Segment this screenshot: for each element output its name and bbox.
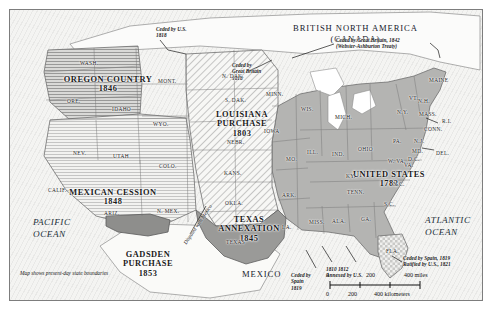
state-label-colo: COLO.: [159, 163, 177, 169]
state-label-nebr: NEBR.: [227, 139, 244, 145]
state-label-miss: MISS.: [309, 219, 325, 225]
territory-line-2: 1783: [349, 179, 429, 188]
state-label-kans: KANS.: [224, 170, 242, 176]
country-label-mexico: MEXICO: [242, 269, 281, 280]
scale-km-200: 200: [348, 291, 357, 297]
scale-bar: 0 200 400 miles 0 200 400 kilometers: [326, 272, 446, 300]
ocean-label-pacific-ocean: PACIFICOCEAN: [33, 217, 71, 240]
state-label-s-c: S.C.: [384, 201, 395, 207]
state-label-conn: CONN.: [424, 126, 442, 132]
annotation-line-3: 1819: [291, 285, 311, 291]
state-label-nev: NEV.: [73, 150, 86, 156]
state-label-del: DEL.: [436, 150, 449, 156]
country-line-1: MEXICO: [242, 269, 281, 280]
state-label-r-i: R.I.: [442, 118, 452, 124]
state-label-ga: GA.: [361, 216, 371, 222]
state-label-s-dak: S. DAK.: [225, 97, 246, 103]
state-label-wis: WIS.: [301, 106, 314, 112]
state-label-n-y: N.Y.: [397, 109, 408, 115]
state-label-wash: WASH.: [80, 60, 98, 66]
state-label-calif: CALIF.: [48, 187, 67, 193]
state-label-ky: KY.: [346, 173, 356, 179]
scale-miles-400: 400 miles: [404, 272, 428, 278]
scale-miles-200: 200: [366, 272, 375, 278]
state-label-pa: PA.: [393, 138, 402, 144]
state-label-n-h: N.H.: [418, 98, 430, 104]
territory-line-1: MEXICAN CESSION: [59, 188, 167, 197]
territory-line-2: ANNEXATION: [208, 224, 290, 233]
state-label-n-c: N.C.: [393, 181, 405, 187]
state-label-minn: MINN.: [266, 91, 283, 97]
state-label-mont: MONT.: [158, 78, 177, 84]
territory-line-2: 1848: [59, 197, 167, 206]
country-line-1: BRITISH NORTH AMERICA: [293, 23, 418, 34]
state-label-maine: MAINE: [429, 77, 448, 83]
territory-line-3: 1845: [208, 234, 290, 243]
state-label-texas: TEXAS: [226, 239, 245, 245]
territory-label-united-states-1783: UNITED STATES1783: [349, 170, 429, 189]
territory-line-1: TEXAS: [208, 215, 290, 224]
state-label-mass: MASS.: [419, 111, 437, 117]
ocean-label-atlantic-ocean: ATLANTICOCEAN: [425, 215, 471, 238]
state-label-idaho: IDAHO: [112, 106, 131, 112]
state-label-vt: VT.: [409, 95, 418, 101]
state-label-n-dak: N. DAK.: [222, 73, 244, 79]
state-label-md: MD.: [412, 148, 423, 154]
annotation-ceded-by-spain-florida: Ceded by Spain, 1819Ratified by U.S., 18…: [403, 255, 451, 268]
territory-line-1: OREGON COUNTRY: [56, 75, 160, 84]
gadsden-purchase-area: [106, 214, 170, 236]
state-label-d-c: D.C.: [408, 156, 420, 162]
state-label-n-j: N.J.: [414, 138, 424, 144]
map-frame: BRITISH NORTH AMERICA(CANADA)MEXICO PACI…: [9, 9, 483, 301]
state-label-mo: MO.: [286, 156, 297, 162]
state-label-ala: ALA.: [332, 218, 346, 224]
territory-label-mexican-cession: MEXICAN CESSION1848: [59, 188, 167, 207]
territory-line-1: UNITED STATES: [349, 170, 429, 179]
historical-map: BRITISH NORTH AMERICA(CANADA)MEXICO PACI…: [0, 0, 492, 322]
state-label-n-mex: N. MEX.: [157, 208, 179, 214]
state-label-iowa: IOWA: [264, 128, 279, 134]
state-label-tenn: TENN.: [347, 189, 364, 195]
state-label-fla: FLA.: [386, 248, 399, 254]
annotation-line-2: Ratified by U.S., 1821: [403, 261, 451, 267]
annotation-line-2: (Webster-Ashburton Treaty): [336, 43, 400, 49]
ocean-line-1: PACIFIC: [33, 217, 71, 229]
ocean-line-2: OCEAN: [425, 227, 471, 239]
state-label-la: LA.: [282, 224, 292, 230]
state-label-okla: OKLA.: [225, 200, 243, 206]
territory-label-oregon-country: OREGON COUNTRY1846: [56, 75, 160, 94]
scale-miles-0: 0: [326, 272, 329, 278]
map-note: Map shows present-day state boundaries: [20, 270, 108, 277]
territory-line-1: LOUISIANA: [202, 110, 282, 119]
state-label-utah: UTAH: [113, 153, 129, 159]
territory-line-2: 1846: [56, 84, 160, 93]
territory-line-1: GADSDEN: [112, 250, 184, 259]
state-label-wyo: WYO.: [153, 121, 169, 127]
annotation-ceded-by-us-1818: Ceded by U.S.1818: [156, 26, 187, 39]
annotation-ceded-by-spain-1819-gulf: Ceded bySpain1819: [291, 272, 311, 291]
state-label-ind: IND.: [332, 151, 344, 157]
annotation-webster-ashburton: Ceded by Great Britain, 1842(Webster-Ash…: [336, 37, 400, 50]
territory-line-3: 1853: [112, 269, 184, 278]
state-label-mich: MICH.: [335, 114, 352, 120]
territory-line-2: PURCHASE: [112, 259, 184, 268]
scale-km-400: 400 kilometers: [374, 291, 410, 297]
ocean-line-2: OCEAN: [33, 229, 71, 241]
state-label-ill: ILL.: [307, 149, 318, 155]
annotation-line-2: 1818: [156, 32, 187, 38]
territory-label-texas-annexation: TEXASANNEXATION1845: [208, 215, 290, 243]
state-label-ark: ARK.: [282, 192, 296, 198]
state-label-w-va: W. VA.: [388, 158, 406, 164]
state-label-ohio: OHIO: [358, 146, 373, 152]
territory-label-gadsden-purchase: GADSDENPURCHASE1853: [112, 250, 184, 278]
state-label-ore: ORE.: [67, 98, 81, 104]
scale-km-0: 0: [326, 291, 329, 297]
state-label-ariz: ARIZ.: [104, 210, 120, 216]
ocean-line-1: ATLANTIC: [425, 215, 471, 227]
